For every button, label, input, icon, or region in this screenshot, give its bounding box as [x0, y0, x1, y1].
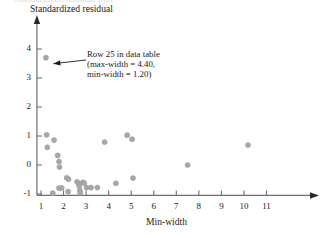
axes-group — [34, 15, 319, 199]
data-point — [88, 185, 93, 190]
x-tick-label: 9 — [211, 201, 231, 211]
data-point — [130, 175, 135, 180]
x-axis-title: Min-width — [146, 217, 187, 228]
scatter-plot-figure: Standardized residual plot Standardized … — [0, 0, 323, 238]
data-point — [51, 137, 56, 142]
y-axis-arrowhead — [34, 15, 40, 24]
data-point — [50, 191, 55, 196]
data-point — [102, 139, 107, 144]
data-point — [113, 181, 118, 186]
x-tick-label: 8 — [189, 201, 209, 211]
data-point — [125, 133, 130, 138]
data-point — [57, 164, 62, 169]
data-point — [44, 132, 49, 137]
y-tick-label: 4 — [11, 43, 31, 53]
y-tick-label: 2 — [11, 101, 31, 111]
x-tick-label: 4 — [99, 201, 119, 211]
data-point — [45, 145, 50, 150]
annotation-arrow — [53, 60, 86, 65]
data-point — [59, 185, 64, 190]
callout-arrowhead — [53, 60, 60, 65]
data-point — [130, 137, 135, 142]
data-point — [43, 55, 48, 60]
y-tick-label: 1 — [11, 130, 31, 140]
y-tick-label: 0 — [11, 159, 31, 169]
data-point — [82, 180, 87, 185]
x-tick-label: 7 — [166, 201, 186, 211]
data-point — [55, 153, 60, 158]
data-point — [56, 159, 61, 164]
data-point — [95, 185, 100, 190]
x-tick-label: 5 — [121, 201, 141, 211]
data-point — [78, 190, 83, 195]
x-tick-label: 6 — [144, 201, 164, 211]
y-tick-label: 3 — [11, 72, 31, 82]
y-tick-label: -1 — [11, 188, 31, 198]
x-tick-label: 1 — [31, 201, 51, 211]
x-tick-label: 2 — [54, 201, 74, 211]
callout-line: min-width = 1.20) — [87, 70, 160, 80]
data-point — [66, 177, 71, 182]
outlier-callout: Row 25 in data table(max-width = 4.40,mi… — [87, 50, 160, 80]
x-tick-label: 3 — [76, 201, 96, 211]
data-point — [185, 162, 190, 167]
x-tick-label: 10 — [234, 201, 254, 211]
x-axis-arrowhead — [310, 192, 319, 198]
data-point — [245, 142, 250, 147]
x-tick-label: 11 — [257, 201, 277, 211]
data-point — [65, 189, 70, 194]
